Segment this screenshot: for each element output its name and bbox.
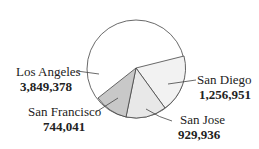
- label-san-francisco: San Francisco: [28, 105, 101, 119]
- value-san-diego: 1,256,951: [199, 88, 251, 102]
- value-los-angeles: 3,849,378: [20, 80, 72, 94]
- value-san-francisco: 744,041: [43, 120, 85, 134]
- label-los-angeles: Los Angeles: [16, 65, 81, 79]
- label-san-jose: San Jose: [180, 113, 225, 127]
- value-san-jose: 929,936: [178, 128, 220, 142]
- label-san-diego: San Diego: [197, 73, 252, 87]
